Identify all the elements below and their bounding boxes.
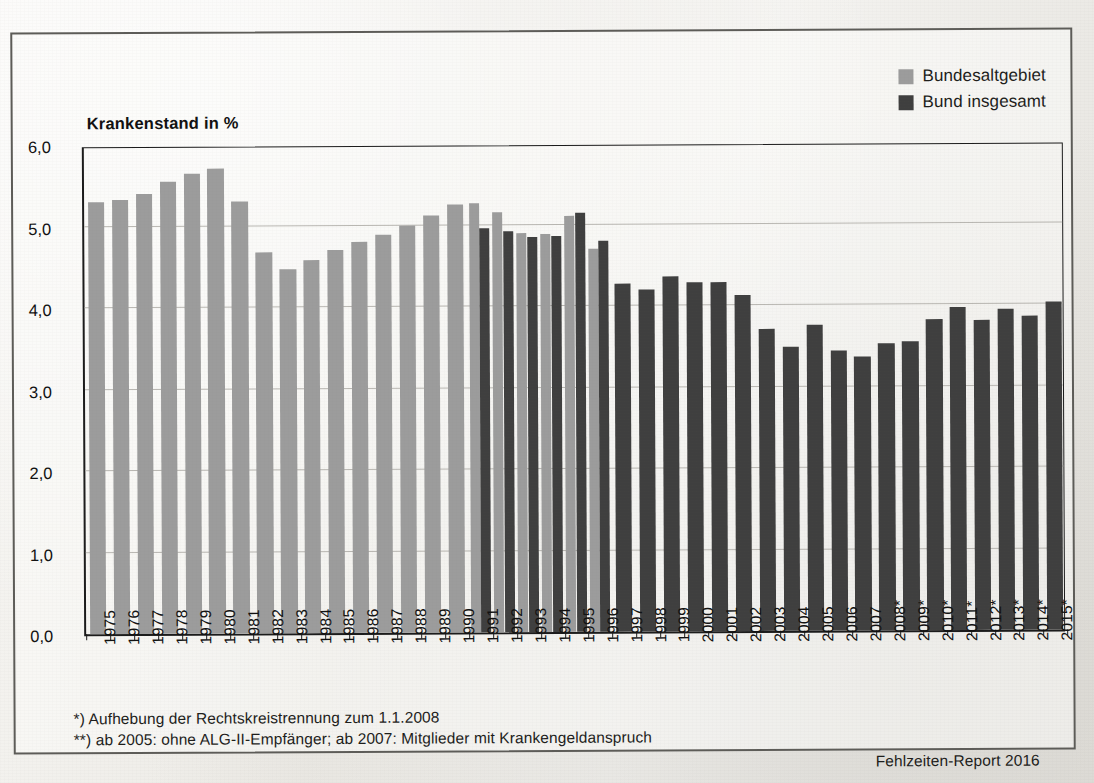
- x-tick-label: 2002: [747, 607, 765, 642]
- x-tick-label: 2013*: [1010, 599, 1028, 641]
- x-tick-label: 2007: [867, 606, 885, 641]
- x-tick-label: 2012*: [987, 599, 1005, 641]
- x-tick-label: 1992: [508, 608, 526, 643]
- x-tick-label: 1995: [580, 607, 598, 642]
- x-tick-label: 1978: [173, 609, 191, 644]
- chart-frame: Bundesaltgebiet Bund insgesamt Krankenst…: [10, 27, 1076, 754]
- x-tick-label: 1999: [676, 607, 694, 642]
- x-axis-labels: 1975197619771978197919801981198219831984…: [12, 29, 1094, 783]
- x-tick-label: 1990: [460, 608, 478, 643]
- x-tick-label: 2003: [771, 607, 789, 642]
- x-tick-label: 2008*: [891, 600, 909, 642]
- x-tick-label: 2005: [819, 606, 837, 641]
- x-tick-label: 1976: [125, 610, 143, 645]
- x-tick-label: 1988: [412, 608, 430, 643]
- x-tick-label: 1982: [269, 609, 287, 644]
- x-tick-label: 2015*: [1058, 599, 1076, 641]
- x-tick-label: 1979: [197, 609, 215, 644]
- x-tick-label: 2000: [699, 607, 717, 642]
- x-tick-label: 1975: [101, 610, 119, 645]
- x-tick-label: 1980: [221, 609, 239, 644]
- x-tick-label: 1996: [604, 607, 622, 642]
- x-tick-label: 1994: [556, 608, 574, 643]
- x-tick-label: 1984: [317, 609, 335, 644]
- x-tick-label: 2001: [723, 607, 741, 642]
- x-tick-label: 1985: [341, 609, 359, 644]
- x-tick-label: 1987: [388, 608, 406, 643]
- footnote-2: **) ab 2005: ohne ALG-II-Empfänger; ab 2…: [74, 728, 652, 749]
- x-tick-label: 2004: [795, 606, 813, 641]
- x-tick-label: 1989: [436, 608, 454, 643]
- x-tick-label: 2014*: [1034, 599, 1052, 641]
- source-label: Fehlzeiten-Report 2016: [876, 752, 1040, 771]
- x-tick-label: 1977: [149, 610, 167, 645]
- footnote-1: *) Aufhebung der Rechtskreistrennung zum…: [74, 707, 652, 728]
- x-tick-label: 1983: [293, 609, 311, 644]
- x-tick-label: 1997: [628, 607, 646, 642]
- x-tick-label: 2011*: [963, 600, 981, 640]
- x-tick-label: 2006: [843, 606, 861, 641]
- x-tick-label: 2010*: [939, 599, 957, 641]
- x-tick-label: 2009*: [915, 600, 933, 642]
- footnotes: *) Aufhebung der Rechtskreistrennung zum…: [74, 707, 652, 752]
- x-tick-label: 1991: [484, 608, 502, 643]
- x-tick-label: 1981: [245, 609, 263, 644]
- x-tick-label: 1986: [364, 608, 382, 643]
- x-tick-label: 1993: [532, 608, 550, 643]
- x-tick-label: 1998: [652, 607, 670, 642]
